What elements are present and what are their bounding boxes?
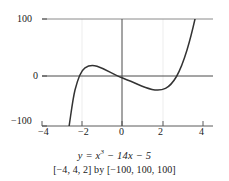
caption-equation: y = x3 − 14x − 5 [0, 145, 229, 163]
y-tick-label-100: 100 [17, 14, 32, 24]
equation-prefix: y = x [78, 150, 101, 161]
y-axis-ticks [42, 19, 47, 126]
y-tick-label-0: 0 [33, 71, 38, 81]
y-tick-label-neg100: −100 [11, 116, 32, 126]
graph-figure: 100 0 −100 −4 −2 0 2 4 y = x3 − 14x − 5 … [0, 0, 229, 181]
caption-window: [−4, 4, 2] by [−100, 100, 100] [0, 163, 229, 177]
x-tick-label-0: 0 [119, 127, 124, 137]
x-tick-label-4: 4 [199, 127, 204, 137]
equation-rest: − 14x − 5 [104, 150, 151, 161]
figure-caption: y = x3 − 14x − 5 [−4, 4, 2] by [−100, 10… [0, 145, 229, 177]
x-tick-label-neg2: −2 [78, 127, 89, 137]
plot-area: 100 0 −100 −4 −2 0 2 4 [0, 0, 229, 142]
x-tick-label-2: 2 [158, 127, 163, 137]
x-tick-label-neg4: −4 [38, 127, 49, 137]
